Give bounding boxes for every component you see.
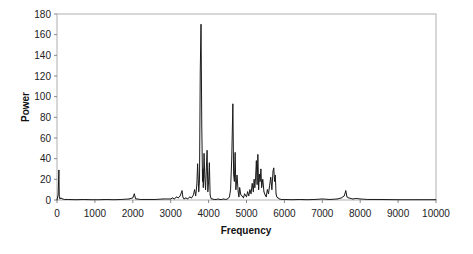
data-point [260, 181, 261, 182]
data-point [367, 199, 368, 200]
y-tick-label: 140 [34, 50, 51, 61]
x-tick-label: 5000 [235, 208, 258, 219]
data-point [235, 189, 236, 190]
data-point [278, 198, 279, 199]
data-point [232, 104, 233, 105]
data-point [240, 194, 241, 195]
data-point [83, 199, 84, 200]
data-point [307, 199, 308, 200]
data-point [261, 187, 262, 188]
data-point [254, 187, 255, 188]
data-point [257, 184, 258, 185]
data-point [251, 193, 252, 194]
data-point [337, 199, 338, 200]
y-tick-label: 40 [40, 153, 52, 164]
data-point [201, 125, 202, 126]
data-point [76, 199, 77, 200]
data-point [345, 190, 346, 191]
data-point [270, 177, 271, 178]
plot-area [57, 14, 436, 200]
data-point [230, 189, 231, 190]
x-axis: 0100020003000400050006000700080009000100… [54, 200, 450, 219]
data-point [135, 197, 136, 198]
data-point [187, 199, 188, 200]
data-point [265, 194, 266, 195]
data-point [235, 152, 236, 153]
data-point [180, 195, 181, 196]
data-point [68, 199, 69, 200]
data-point [132, 198, 133, 199]
data-point [239, 187, 240, 188]
y-tick-label: 60 [40, 133, 52, 144]
data-point [182, 190, 183, 191]
data-point [172, 198, 173, 199]
x-tick-label: 9000 [387, 208, 410, 219]
data-point [182, 197, 183, 198]
y-tick-label: 80 [40, 112, 52, 123]
x-tick-label: 8000 [349, 208, 372, 219]
data-point [223, 199, 224, 200]
data-point [417, 199, 418, 200]
data-point [276, 193, 277, 194]
data-point [60, 199, 61, 200]
data-point [212, 199, 213, 200]
data-point [203, 169, 204, 170]
data-point [195, 195, 196, 196]
x-tick-label: 7000 [311, 208, 334, 219]
data-point [276, 197, 277, 198]
data-point [155, 199, 156, 200]
data-point [178, 198, 179, 199]
data-point [197, 163, 198, 164]
data-point [436, 199, 437, 200]
data-point [348, 198, 349, 199]
x-tick-label: 3000 [160, 208, 183, 219]
data-point [196, 184, 197, 185]
data-point [284, 199, 285, 200]
data-point [60, 198, 61, 199]
data-point [329, 199, 330, 200]
data-point [258, 189, 259, 190]
data-point [266, 197, 267, 198]
data-point [279, 199, 280, 200]
data-point [58, 170, 59, 171]
data-point [273, 171, 274, 172]
data-point [229, 197, 230, 198]
y-tick-label: 100 [34, 91, 51, 102]
data-point [274, 181, 275, 182]
data-point [233, 174, 234, 175]
data-point [208, 181, 209, 182]
y-axis-title: Power [20, 92, 31, 122]
data-point [267, 189, 268, 190]
data-point [269, 185, 270, 186]
data-point [347, 197, 348, 198]
data-point [253, 191, 254, 192]
data-point [225, 199, 226, 200]
data-point [239, 197, 240, 198]
data-point [254, 179, 255, 180]
data-point [121, 199, 122, 200]
data-point [262, 179, 263, 180]
data-point [174, 199, 175, 200]
data-point [237, 175, 238, 176]
chart: 020406080100120140160180 010002000300040… [0, 0, 473, 254]
data-point [227, 199, 228, 200]
data-point [221, 199, 222, 200]
y-tick-label: 180 [34, 9, 51, 20]
data-point [140, 199, 141, 200]
data-point [163, 199, 164, 200]
data-point [248, 195, 249, 196]
data-point [220, 199, 221, 200]
x-tick-label: 10000 [422, 208, 450, 219]
data-point [209, 162, 210, 163]
data-point [198, 191, 199, 192]
data-point [299, 199, 300, 200]
data-point [281, 199, 282, 200]
y-tick-label: 20 [40, 174, 52, 185]
data-point [205, 189, 206, 190]
data-point [264, 191, 265, 192]
data-point [200, 70, 201, 71]
data-point [234, 181, 235, 182]
data-point [238, 191, 239, 192]
data-point [201, 24, 202, 25]
data-point [247, 191, 248, 192]
